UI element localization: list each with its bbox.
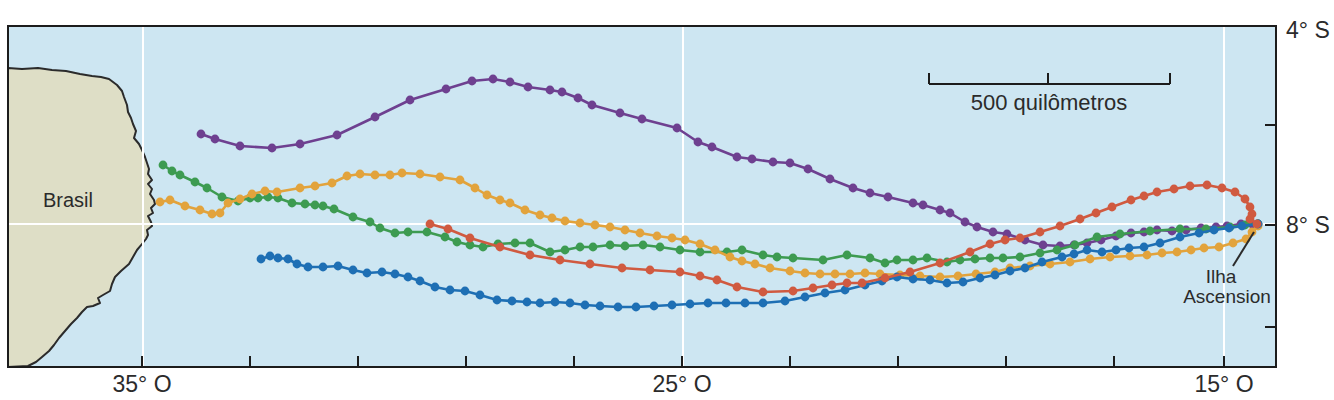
- track-red-point: [1153, 188, 1162, 197]
- track-yellow-point: [496, 196, 505, 205]
- track-yellow-point: [561, 217, 570, 226]
- track-green-point: [526, 239, 535, 248]
- track-purple-point: [936, 206, 945, 215]
- track-yellow-point: [1106, 253, 1115, 262]
- track-red-point: [444, 225, 453, 234]
- track-blue-point: [1210, 226, 1219, 235]
- lat-label-8s: 8° S: [1286, 212, 1330, 238]
- track-green-point: [1071, 241, 1080, 250]
- track-purple-point: [769, 158, 778, 167]
- track-red-point: [986, 240, 995, 249]
- track-yellow-point: [681, 236, 690, 245]
- track-red-point: [618, 264, 627, 273]
- track-yellow-point: [1173, 248, 1182, 257]
- track-purple-point: [708, 143, 717, 152]
- track-purple-point: [989, 228, 998, 237]
- track-yellow-point: [371, 171, 380, 180]
- track-yellow-point: [636, 229, 645, 238]
- track-green-point: [288, 199, 297, 208]
- track-blue-point: [1098, 248, 1107, 257]
- track-purple-point: [909, 199, 918, 208]
- track-purple-point: [211, 135, 220, 144]
- track-blue-point: [596, 302, 605, 311]
- track-purple-point: [849, 184, 858, 193]
- track-yellow-point: [196, 206, 205, 215]
- track-purple-point: [616, 109, 625, 118]
- track-green-point: [843, 251, 852, 260]
- track-blue-point: [1140, 243, 1149, 252]
- track-green-point: [621, 242, 630, 251]
- track-purple-point: [826, 175, 835, 184]
- track-green-point: [159, 161, 168, 170]
- track-red-point: [1241, 195, 1250, 204]
- track-blue-point: [461, 287, 470, 296]
- lon-label-15: 15° O: [1194, 371, 1253, 397]
- track-red-point: [858, 279, 867, 288]
- track-blue-point: [1225, 224, 1234, 233]
- track-purple-point: [442, 85, 451, 94]
- track-red-point: [906, 268, 915, 277]
- track-blue-point: [1156, 239, 1165, 248]
- track-green-point: [866, 254, 875, 263]
- track-purple-point: [268, 144, 277, 153]
- track-red-point: [759, 288, 768, 297]
- track-blue-point: [943, 279, 952, 288]
- track-red-point: [828, 281, 837, 290]
- track-green-point: [1036, 249, 1045, 258]
- track-blue-point: [581, 301, 590, 310]
- track-yellow-point: [726, 253, 735, 262]
- track-blue-point: [686, 300, 695, 309]
- track-green-point: [1176, 225, 1185, 234]
- track-yellow-point: [181, 202, 190, 211]
- track-blue-point: [446, 286, 455, 295]
- track-yellow-point: [1200, 244, 1209, 253]
- track-yellow-point: [1158, 249, 1167, 258]
- track-red-point: [1108, 203, 1117, 212]
- track-green-point: [789, 254, 798, 263]
- track-blue-point: [523, 298, 532, 307]
- track-yellow-point: [696, 240, 705, 249]
- track-purple-point: [733, 153, 742, 162]
- track-yellow-point: [311, 182, 320, 191]
- track-yellow-point: [653, 232, 662, 241]
- track-yellow-point: [621, 226, 630, 235]
- track-yellow-point: [861, 269, 870, 278]
- track-purple-point: [546, 86, 555, 95]
- track-red-point: [586, 260, 595, 269]
- track-purple-point: [197, 130, 206, 139]
- track-red-point: [1001, 236, 1010, 245]
- track-red-point: [1076, 215, 1085, 224]
- track-red-point: [733, 283, 742, 292]
- track-blue-point: [284, 255, 293, 264]
- track-blue-point: [391, 270, 400, 279]
- track-blue-point: [1006, 267, 1015, 276]
- map-figure: Brasil Ilha Ascension 500 quilômetros 35…: [0, 0, 1334, 400]
- migration-map: Brasil Ilha Ascension 500 quilômetros 35…: [0, 0, 1334, 400]
- track-red-point: [526, 251, 535, 260]
- track-blue-point: [959, 278, 968, 287]
- track-yellow-point: [506, 199, 515, 208]
- track-yellow-point: [846, 270, 855, 279]
- track-blue-point: [614, 303, 623, 312]
- track-red-point: [1127, 196, 1136, 205]
- track-green-point: [168, 167, 177, 176]
- track-purple-point: [406, 96, 415, 105]
- track-blue-point: [536, 299, 545, 308]
- track-green-point: [376, 224, 385, 233]
- track-purple-point: [524, 83, 533, 92]
- track-yellow-point: [216, 209, 225, 218]
- track-blue-point: [378, 268, 387, 277]
- track-red-point: [789, 287, 798, 296]
- track-green-point: [191, 178, 200, 187]
- track-blue-point: [274, 254, 283, 263]
- track-green-point: [819, 256, 828, 265]
- track-green-point: [589, 243, 598, 252]
- track-purple-point: [236, 142, 245, 151]
- track-red-point: [1140, 192, 1149, 201]
- track-blue-point: [566, 299, 575, 308]
- track-yellow-point: [416, 170, 425, 179]
- track-blue-point: [431, 283, 440, 292]
- track-blue-point: [293, 260, 302, 269]
- track-red-point: [496, 243, 505, 252]
- track-purple-point: [919, 201, 928, 210]
